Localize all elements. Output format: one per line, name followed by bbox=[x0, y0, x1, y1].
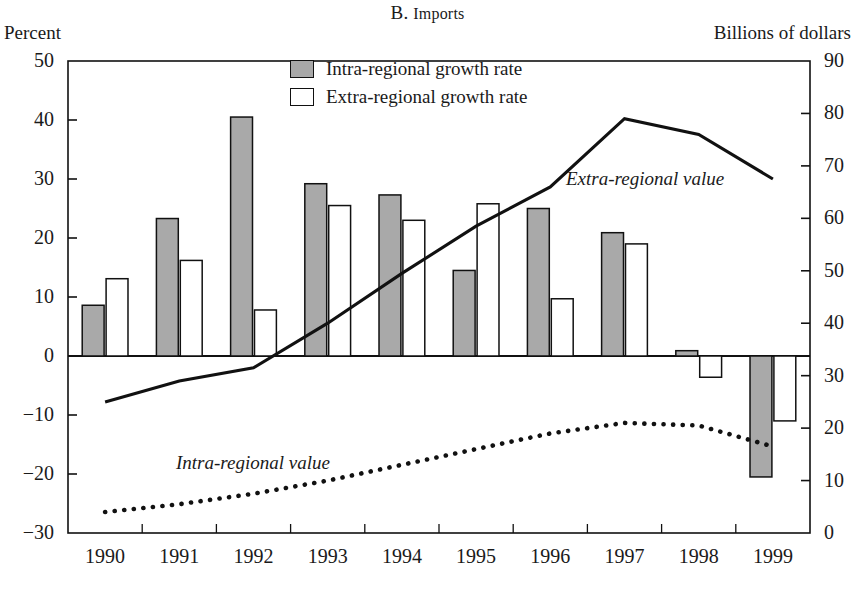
bar-intra-regional bbox=[750, 356, 772, 477]
x-axis-tick-label: 1994 bbox=[365, 545, 439, 568]
extra-regional-value-label: Extra-regional value bbox=[566, 168, 724, 190]
legend-item: Intra-regional growth rate bbox=[290, 58, 522, 80]
left-axis-tick-label: 40 bbox=[0, 109, 54, 129]
x-axis-tick-label: 1990 bbox=[68, 545, 142, 568]
x-axis-tick-label: 1995 bbox=[439, 545, 513, 568]
right-axis-tick-label: 70 bbox=[824, 155, 855, 175]
bar-intra-regional bbox=[527, 209, 549, 357]
left-axis-tick-label: −20 bbox=[0, 463, 54, 483]
x-axis-tick-label: 1996 bbox=[513, 545, 587, 568]
left-axis-tick-label: 20 bbox=[0, 227, 54, 247]
right-axis-tick-label: 40 bbox=[824, 312, 855, 332]
line-extra-regional-value bbox=[105, 119, 773, 402]
right-axis-tick-label: 50 bbox=[824, 260, 855, 280]
right-axis-tick-label: 0 bbox=[824, 522, 855, 542]
right-axis-tick-label: 10 bbox=[824, 470, 855, 490]
bar-extra-regional bbox=[106, 279, 128, 356]
right-axis-tick-label: 20 bbox=[824, 417, 855, 437]
chart-root: B. Imports Percent Billions of dollars 5… bbox=[0, 0, 855, 589]
legend-label: Intra-regional growth rate bbox=[326, 58, 522, 80]
intra-regional-value-label: Intra-regional value bbox=[176, 452, 330, 474]
x-axis-tick-label: 1998 bbox=[662, 545, 736, 568]
left-axis-tick-label: −30 bbox=[0, 522, 54, 542]
bar-intra-regional bbox=[82, 305, 104, 356]
x-axis-tick-label: 1993 bbox=[291, 545, 365, 568]
left-axis-tick-label: 10 bbox=[0, 286, 54, 306]
bar-intra-regional bbox=[453, 270, 475, 356]
bar-extra-regional bbox=[700, 356, 722, 377]
right-axis-tick-label: 30 bbox=[824, 365, 855, 385]
x-axis-tick-label: 1999 bbox=[736, 545, 810, 568]
legend-label: Extra-regional growth rate bbox=[326, 86, 528, 108]
bar-intra-regional bbox=[676, 351, 698, 356]
bar-extra-regional bbox=[255, 310, 277, 356]
bar-extra-regional bbox=[477, 204, 499, 356]
left-axis-tick-label: 30 bbox=[0, 168, 54, 188]
legend-swatch-extra-icon bbox=[290, 88, 314, 106]
left-axis-tick-label: 50 bbox=[0, 50, 54, 70]
bar-intra-regional bbox=[602, 233, 624, 356]
right-axis-tick-label: 90 bbox=[824, 50, 855, 70]
right-axis-tick-label: 60 bbox=[824, 207, 855, 227]
x-axis-tick-label: 1992 bbox=[216, 545, 290, 568]
bar-extra-regional bbox=[774, 356, 796, 421]
bar-extra-regional bbox=[626, 244, 648, 356]
right-axis-tick-label: 80 bbox=[824, 102, 855, 122]
bar-extra-regional bbox=[403, 220, 425, 356]
bar-extra-regional bbox=[180, 260, 202, 356]
x-axis-tick-label: 1997 bbox=[587, 545, 661, 568]
left-axis-tick-label: −10 bbox=[0, 404, 54, 424]
bar-extra-regional bbox=[329, 206, 351, 356]
bar-intra-regional bbox=[231, 117, 253, 356]
x-axis-tick-label: 1991 bbox=[142, 545, 216, 568]
left-axis-tick-label: 0 bbox=[0, 345, 54, 365]
bar-intra-regional bbox=[156, 219, 178, 356]
legend-swatch-intra-icon bbox=[290, 60, 314, 78]
bar-extra-regional bbox=[551, 299, 573, 356]
legend-item: Extra-regional growth rate bbox=[290, 86, 528, 108]
